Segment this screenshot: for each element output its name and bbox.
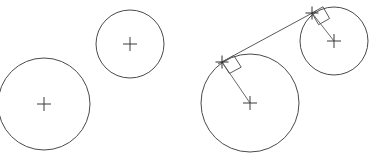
- diagram-background: [0, 0, 370, 157]
- geometry-canvas: [0, 0, 370, 157]
- geometry-diagram: [0, 0, 370, 157]
